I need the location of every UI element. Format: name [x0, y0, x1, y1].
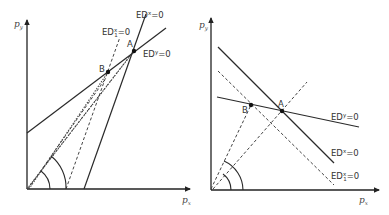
left-edx-curve: [84, 14, 146, 189]
right-x-axis-label: px: [359, 195, 369, 206]
left-point-a-label: A: [127, 39, 133, 49]
left-panel: py px A B EDx=0 EDy=0 EDx1=0: [14, 10, 192, 206]
left-point-b-label: B: [99, 64, 105, 74]
left-small-angle-arc: [41, 171, 50, 189]
right-panel: py px A B EDy=0 EDx=0 EDx1=0: [199, 18, 379, 206]
left-edy-curve: [27, 28, 166, 133]
left-point-a: [132, 49, 136, 53]
left-y-axis-label: py: [14, 19, 24, 31]
right-point-a: [280, 109, 284, 113]
left-edx1-label: EDx1=0: [102, 27, 130, 38]
left-point-b: [106, 70, 110, 74]
right-edx1-curve: [218, 71, 334, 185]
left-edx-label: EDx=0: [136, 10, 164, 20]
left-edy-label: EDy=0: [143, 49, 171, 59]
right-ray-through-a: [213, 82, 307, 189]
left-large-angle-arc: [51, 156, 66, 189]
right-ray-to-b: [211, 105, 251, 189]
right-edx1-label: EDx1=0: [331, 171, 359, 182]
right-y-axis-label: py: [199, 20, 209, 32]
right-edy-label: EDy=0: [331, 112, 359, 122]
right-point-b-label: B: [242, 105, 248, 115]
diagram-canvas: py px A B EDx=0 EDy=0 EDx1=0 py px: [0, 0, 389, 215]
right-edx-curve: [218, 47, 334, 163]
right-point-a-label: A: [278, 99, 284, 109]
right-edx-label: EDx=0: [331, 148, 359, 158]
left-edx1-curve: [66, 37, 120, 189]
left-x-axis-label: px: [182, 195, 192, 206]
right-point-b: [249, 103, 253, 107]
